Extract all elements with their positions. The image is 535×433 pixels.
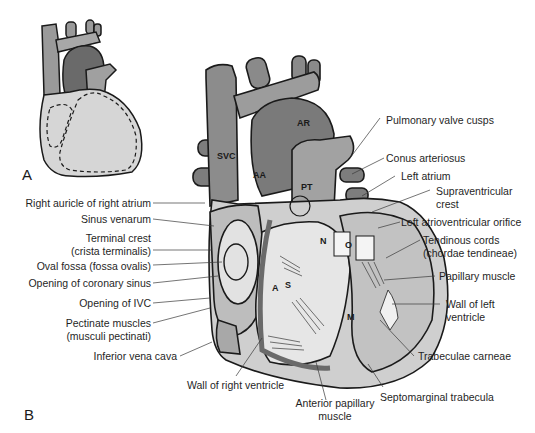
label-m: M — [347, 312, 355, 322]
label-aa: AA — [253, 170, 266, 180]
label-a-chamber: A — [272, 283, 279, 293]
label-musculi-pectinati: (musculi pectinati) — [66, 330, 151, 343]
label-pt: PT — [301, 182, 313, 192]
label-crista-terminalis: (crista terminalis) — [71, 245, 151, 258]
label-o: O — [345, 240, 352, 250]
label-tendinous-cords: Tendinous cords — [423, 234, 499, 247]
label-muscle: muscle — [292, 410, 378, 423]
label-ventricle: ventricle — [446, 311, 485, 324]
label-anterior-papillary: Anterior papillary — [292, 397, 378, 410]
label-pectinate-muscles: Pectinate muscles — [66, 317, 151, 330]
label-inferior-vena-cava: Inferior vena cava — [94, 350, 177, 363]
label-coronary-sinus: Opening of coronary sinus — [28, 277, 151, 290]
label-sinus-venarum: Sinus venarum — [81, 213, 151, 226]
label-wall-left: Wall of left — [446, 298, 495, 311]
label-terminal-crest: Terminal crest — [86, 232, 151, 245]
label-supraventricular: Supraventricular — [436, 185, 512, 198]
label-crest: crest — [436, 198, 459, 211]
panel-label-a: A — [22, 166, 32, 183]
label-svc: SVC — [217, 151, 236, 161]
label-oval-fossa: Oval fossa (fossa ovalis) — [37, 260, 151, 273]
label-chordae-tendineae: (chordae tendineae) — [423, 247, 517, 260]
label-left-av-orifice: Left atrioventricular orifice — [401, 216, 521, 229]
label-s: S — [285, 280, 291, 290]
panel-a-heart — [40, 20, 142, 177]
label-wall-right-ventricle: Wall of right ventricle — [187, 379, 284, 392]
label-n: N — [320, 236, 327, 246]
label-opening-ivc: Opening of IVC — [79, 297, 151, 310]
label-left-atrium: Left atrium — [401, 170, 451, 183]
label-ar: AR — [297, 118, 310, 128]
label-conus-arteriosus: Conus arteriosus — [386, 152, 465, 165]
label-trabeculae-carneae: Trabeculae carneae — [418, 350, 511, 363]
label-septomarginal-trabecula: Septomarginal trabecula — [380, 391, 494, 404]
label-papillary-muscle: Papillary muscle — [439, 270, 515, 283]
label-pulmonary-valve-cusps: Pulmonary valve cusps — [386, 114, 494, 127]
panel-label-b: B — [24, 406, 34, 423]
label-right-auricle: Right auricle of right atrium — [26, 197, 151, 210]
